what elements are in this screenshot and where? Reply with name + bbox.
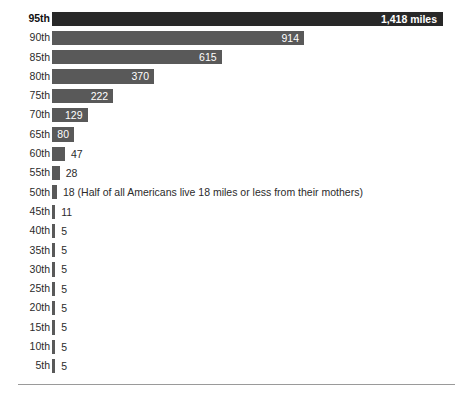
bar-track: 370 [52, 69, 455, 83]
chart-plot-area: 95th1,418 miles90th91485th61580th37075th… [0, 9, 455, 377]
bar-value-label: 5 [61, 301, 67, 315]
chart-row: 35th5 [0, 241, 455, 260]
bar [52, 224, 55, 238]
bar-track: 11 [52, 205, 455, 219]
percentile-axis-label: 15th [0, 318, 50, 337]
bar-value-label: 5 [61, 359, 67, 373]
bar-value-label: 1,418 miles [381, 12, 437, 26]
bar-track: 5 [52, 224, 455, 238]
bar [52, 340, 55, 354]
chart-row: 45th11 [0, 202, 455, 221]
percentile-axis-label: 90th [0, 28, 50, 47]
percentile-axis-label: 55th [0, 163, 50, 182]
bar-value-label: 80 [57, 127, 69, 141]
chart-row: 80th370 [0, 67, 455, 86]
percentile-axis-label: 25th [0, 279, 50, 298]
percentile-axis-label: 50th [0, 183, 50, 202]
bar-track: 5 [52, 359, 455, 373]
bar-track: 18 (Half of all Americans live 18 miles … [52, 185, 455, 199]
percentile-axis-label: 45th [0, 202, 50, 221]
percentile-axis-label: 75th [0, 86, 50, 105]
bar-value-label: 5 [61, 224, 67, 238]
percentile-distance-bar-chart: 95th1,418 miles90th91485th61580th37075th… [0, 0, 455, 396]
bar-value-label: 5 [61, 282, 67, 296]
bar: 1,418 miles [52, 12, 443, 26]
bar: 222 [52, 89, 113, 103]
bar-track: 1,418 miles [52, 12, 455, 26]
percentile-axis-label: 30th [0, 260, 50, 279]
bar-value-label: 5 [61, 320, 67, 334]
chart-row: 55th28 [0, 163, 455, 182]
bar-track: 5 [52, 301, 455, 315]
bar [52, 185, 57, 199]
chart-row: 65th80 [0, 125, 455, 144]
bar-value-label: 5 [61, 243, 67, 257]
bar-value-label: 5 [61, 340, 67, 354]
bar-track: 80 [52, 127, 455, 141]
chart-row: 15th5 [0, 318, 455, 337]
chart-row: 85th615 [0, 48, 455, 67]
percentile-axis-label: 35th [0, 241, 50, 260]
chart-row: 75th222 [0, 86, 455, 105]
bar: 370 [52, 69, 154, 83]
bar [52, 301, 55, 315]
bar-track: 5 [52, 320, 455, 334]
bar: 914 [52, 31, 304, 45]
chart-row: 40th5 [0, 221, 455, 240]
chart-row: 95th1,418 miles [0, 9, 455, 28]
bar-track: 615 [52, 50, 455, 64]
bar [52, 147, 65, 161]
bar-track: 5 [52, 262, 455, 276]
bar [52, 359, 55, 373]
bar-track: 47 [52, 147, 455, 161]
bar-value-label: 615 [199, 50, 217, 64]
bar [52, 243, 55, 257]
chart-row: 25th5 [0, 279, 455, 298]
chart-row: 90th914 [0, 28, 455, 47]
bar-value-label: 129 [65, 108, 83, 122]
bar [52, 166, 60, 180]
percentile-axis-label: 70th [0, 105, 50, 124]
percentile-axis-label: 95th [0, 9, 50, 28]
chart-row: 50th18 (Half of all Americans live 18 mi… [0, 183, 455, 202]
bar-value-label: 47 [71, 147, 83, 161]
chart-row: 5th5 [0, 356, 455, 375]
percentile-axis-label: 40th [0, 221, 50, 240]
bar [52, 282, 55, 296]
percentile-axis-label: 60th [0, 144, 50, 163]
percentile-axis-label: 85th [0, 48, 50, 67]
bar [52, 262, 55, 276]
bar-track: 5 [52, 340, 455, 354]
bar-track: 129 [52, 108, 455, 122]
chart-row: 10th5 [0, 337, 455, 356]
bar-value-label: 11 [61, 205, 72, 219]
percentile-axis-label: 5th [0, 356, 50, 375]
bar: 615 [52, 50, 222, 64]
bar-value-label: 370 [131, 69, 149, 83]
chart-row: 60th47 [0, 144, 455, 163]
bar-value-label: 222 [91, 89, 109, 103]
bar-track: 222 [52, 89, 455, 103]
bar-value-label: 914 [281, 31, 299, 45]
bar-track: 914 [52, 31, 455, 45]
chart-row: 30th5 [0, 260, 455, 279]
chart-row: 20th5 [0, 298, 455, 317]
bar: 129 [52, 108, 88, 122]
bar-track: 5 [52, 243, 455, 257]
percentile-axis-label: 10th [0, 337, 50, 356]
footer-divider [18, 384, 455, 385]
bar-track: 5 [52, 282, 455, 296]
bar-value-label: 28 [66, 166, 78, 180]
percentile-axis-label: 20th [0, 298, 50, 317]
percentile-axis-label: 65th [0, 125, 50, 144]
chart-row: 70th129 [0, 105, 455, 124]
percentile-axis-label: 80th [0, 67, 50, 86]
bar [52, 320, 55, 334]
bar: 80 [52, 127, 74, 141]
bar-value-label: 18 (Half of all Americans live 18 miles … [63, 185, 363, 199]
bar-track: 28 [52, 166, 455, 180]
bar-value-label: 5 [61, 262, 67, 276]
bar [52, 205, 55, 219]
